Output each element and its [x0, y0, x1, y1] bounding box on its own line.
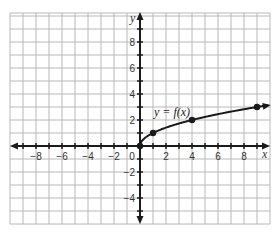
x-tick-labels: −8−6−4−202468: [30, 151, 247, 162]
x-tick-label: 2: [163, 151, 169, 162]
y-axis-label: y: [129, 11, 136, 25]
x-tick-label: −2: [108, 151, 120, 162]
y-tick-label: −4: [124, 193, 136, 204]
x-axis-left-arrow-icon: [10, 143, 18, 150]
x-tick-label: 6: [215, 151, 221, 162]
y-tick-label: 6: [129, 63, 135, 74]
x-tick-label: 0: [129, 151, 135, 162]
data-point: [150, 130, 156, 136]
y-tick-label: 4: [129, 89, 135, 100]
y-tick-label: −2: [124, 167, 136, 178]
x-tick-label: −6: [56, 151, 68, 162]
x-tick-label: 4: [189, 151, 195, 162]
data-point: [137, 143, 143, 149]
curve-arrow-icon: [262, 103, 270, 110]
function-label: y = f(x): [153, 105, 190, 119]
x-tick-label: −4: [82, 151, 94, 162]
x-tick-label: −8: [30, 151, 42, 162]
y-axis-down-arrow-icon: [137, 216, 144, 224]
x-tick-label: 8: [241, 151, 247, 162]
y-tick-label: 8: [129, 37, 135, 48]
y-tick-label: 2: [129, 115, 135, 126]
x-axis-label: x: [261, 147, 268, 161]
coordinate-plane: −8−6−4−202468 8642−2−4 x y y = f(x): [0, 0, 279, 240]
data-point: [254, 104, 260, 110]
